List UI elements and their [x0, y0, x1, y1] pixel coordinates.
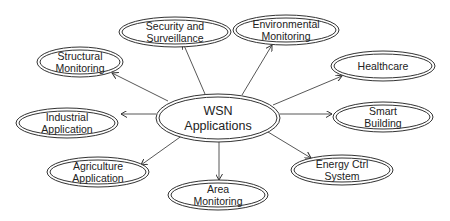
node-label-line: Monitoring — [193, 195, 242, 207]
node-label-line: Building — [364, 117, 402, 129]
node-label-line: Area — [207, 183, 229, 195]
edge-arrow-environmental — [242, 45, 272, 95]
edge-arrow-healthcare — [273, 76, 342, 105]
node-label-line: Monitoring — [55, 62, 104, 74]
node-healthcare: Healthcare — [331, 51, 435, 81]
node-label-line: Structural — [58, 50, 103, 62]
node-label-line: Environmental — [252, 18, 319, 30]
node-label-line: Monitoring — [261, 30, 310, 42]
nodes-layer: Security andSurveillanceEnvironmentalMon… — [16, 15, 435, 210]
node-environmental: EnvironmentalMonitoring — [233, 15, 339, 45]
node-label-line: Energy Ctrl — [316, 158, 369, 170]
node-label-line: Agriculture — [73, 160, 123, 172]
node-label-line: Surveillance — [146, 32, 203, 44]
node-label-line: Applications — [184, 119, 251, 133]
node-smart-building: SmartBuilding — [333, 102, 433, 132]
edge-arrow-energy — [268, 132, 311, 158]
node-label-line: Healthcare — [358, 60, 409, 72]
wsn-applications-diagram: Security andSurveillanceEnvironmentalMon… — [0, 0, 450, 221]
center-node-wsn: WSNApplications — [156, 94, 280, 142]
ellipse-outer — [156, 94, 280, 142]
edge-arrow-security — [183, 43, 205, 94]
node-structural: StructuralMonitoring — [37, 47, 123, 77]
node-security: Security andSurveillance — [119, 17, 231, 47]
node-energy: Energy CtrlSystem — [291, 155, 393, 185]
node-label-line: Application — [41, 123, 93, 135]
node-industrial: IndustrialApplication — [16, 108, 118, 138]
node-agriculture: AgricultureApplication — [47, 157, 149, 187]
node-label-line: WSN — [203, 104, 232, 118]
node-label-line: System — [324, 170, 359, 182]
node-label-line: Smart — [369, 105, 397, 117]
edge-arrow-agriculture — [141, 135, 183, 165]
edge-arrow-structural — [112, 73, 168, 101]
node-label-line: Application — [72, 172, 124, 184]
node-label-line: Security and — [146, 20, 205, 32]
node-label-line: Industrial — [46, 111, 89, 123]
node-area: AreaMonitoring — [168, 180, 268, 210]
